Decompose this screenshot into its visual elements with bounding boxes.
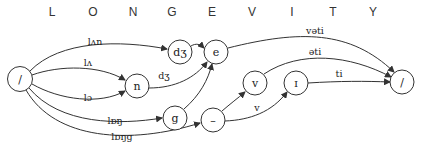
node-label-g: g (171, 112, 178, 125)
edge-label-ati: əti (309, 46, 321, 57)
node-label-i: ɪ (294, 77, 298, 90)
edge-n-e: dʒ (149, 62, 207, 88)
node-label-v: v (251, 77, 259, 90)
edge-label-longg: lɒŋg (111, 131, 132, 142)
edge-start-dz: lʌn (30, 36, 167, 71)
node-label-end: / (400, 76, 404, 89)
node-g: g (163, 106, 187, 130)
node-label-dash: – (210, 114, 216, 127)
edge-start-n-lo: lɔ (32, 84, 125, 103)
edge-label-lo: lɔ (84, 92, 92, 103)
edge-label-lan: lʌn (88, 36, 103, 47)
edge-dz-e (191, 44, 204, 48)
node-e: e (204, 40, 228, 64)
node-label-start: / (18, 73, 22, 86)
edge-label-long: lɒŋ (107, 115, 122, 126)
edge-dash-v (222, 92, 245, 111)
node-dash: – (201, 108, 225, 132)
edge-label-dz: dʒ (158, 70, 170, 81)
edge-v-end: əti (264, 46, 391, 77)
node-end: / (390, 70, 414, 94)
node-n: n (125, 74, 149, 98)
node-i: ɪ (284, 71, 308, 95)
edge-label-v: v (253, 102, 260, 113)
edge-label-ti: ti (336, 68, 343, 79)
node-label-e: e (213, 46, 220, 59)
edge-dash-i: v (225, 92, 287, 121)
node-dz: dʒ (168, 40, 192, 64)
edge-g-e (184, 64, 212, 109)
edge-start-n-la: lʌ (32, 57, 125, 80)
edge-label-vati: vəti (305, 25, 324, 36)
edge-label-la: lʌ (84, 57, 93, 68)
node-start: / (8, 67, 33, 92)
node-label-dz: dʒ (173, 46, 186, 59)
node-v: v (243, 71, 267, 95)
node-label-n: n (133, 80, 140, 93)
lattice-diagram: lʌn lʌ lɔ lɒŋ lɒŋg dʒ v vəti əti (0, 0, 428, 150)
